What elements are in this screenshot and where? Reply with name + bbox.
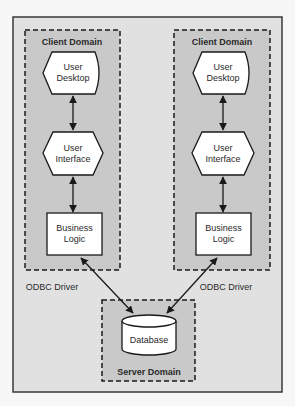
user-desktop-right-line2: Desktop (206, 73, 239, 83)
business-logic-right: Business Logic (196, 213, 251, 255)
architecture-diagram: Client Domain User Desktop User Interfac… (0, 0, 295, 406)
server-domain: Database Server Domain (102, 300, 195, 381)
database-cylinder-top (122, 315, 176, 327)
user-desktop-left-line2: Desktop (56, 73, 89, 83)
user-interface-right-line2: Interface (205, 154, 240, 164)
business-logic-right-line2: Logic (213, 234, 235, 244)
client-domain-left-title: Client Domain (42, 37, 103, 47)
user-desktop-right: User Desktop (193, 52, 249, 94)
user-interface-right: User Interface (192, 132, 254, 175)
business-logic-left-line1: Business (56, 223, 93, 233)
user-interface-left: User Interface (43, 132, 103, 175)
client-domain-right-title: Client Domain (192, 37, 253, 47)
business-logic-right-line1: Business (205, 223, 242, 233)
client-domain-left: Client Domain User Desktop User Interfac… (25, 30, 120, 270)
user-interface-left-line1: User (63, 143, 82, 153)
user-desktop-left: User Desktop (43, 52, 99, 94)
odbc-driver-label-left: ODBC Driver (26, 282, 79, 292)
odbc-driver-label-right: ODBC Driver (200, 282, 253, 292)
user-interface-left-line2: Interface (55, 154, 90, 164)
server-domain-title: Server Domain (117, 367, 181, 377)
business-logic-left: Business Logic (47, 213, 102, 255)
user-desktop-left-line1: User (63, 62, 82, 72)
client-domain-right: Client Domain User Desktop User Interfac… (174, 30, 270, 270)
database-label: Database (130, 335, 169, 345)
user-desktop-right-line1: User (213, 62, 232, 72)
business-logic-left-line2: Logic (64, 234, 86, 244)
user-interface-right-line1: User (213, 143, 232, 153)
database-node: Database (122, 315, 176, 355)
